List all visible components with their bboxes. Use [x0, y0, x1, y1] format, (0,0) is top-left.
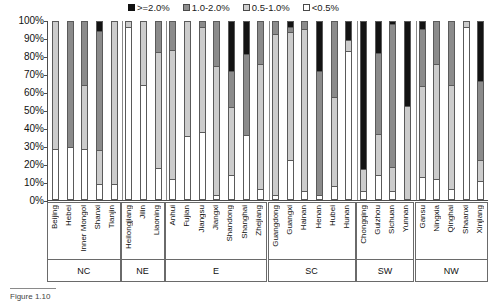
bar-segment [214, 67, 219, 196]
legend-item: <0.5% [303, 3, 339, 13]
bar-slot [459, 21, 474, 200]
region-separator [269, 21, 270, 200]
caption-text: Figure 1.10 [10, 292, 50, 301]
bar-segment [302, 192, 307, 199]
bar-segment [449, 86, 454, 190]
category-label: Xinjiang [476, 205, 484, 233]
bar-slot [444, 21, 459, 200]
bar-slot [195, 21, 210, 200]
stacked-bar [287, 21, 294, 200]
legend-label: 0.5-1.0% [252, 3, 290, 13]
bar-segment [156, 169, 161, 199]
stacked-bar [316, 21, 323, 200]
category-label: Shanghai [241, 205, 249, 239]
category-cell: Shandong [223, 203, 237, 259]
bar-segment [53, 22, 58, 150]
stacked-bar [169, 21, 176, 200]
bar-slot [400, 21, 415, 200]
category-cell: Jilin [136, 203, 150, 259]
category-cell: Guangxi [283, 203, 297, 259]
bar-segment [258, 65, 263, 190]
category-cell: Zhejiang [252, 203, 266, 259]
category-cell: Qinghai [444, 203, 458, 259]
bar-segment [156, 22, 161, 53]
bar-segment [170, 22, 175, 51]
bar-slot [473, 21, 488, 200]
category-label: Guangxi [286, 205, 294, 235]
bar-slot [209, 21, 224, 200]
category-group: GansuNingxiaQinghaiShaanxiXinjiang [415, 202, 489, 260]
category-label: Zhejiang [255, 205, 263, 236]
bar-slot [107, 21, 122, 200]
bar-segment [141, 86, 146, 199]
category-cell: Sichuan [385, 203, 399, 259]
bar-segment [258, 22, 263, 65]
bar-segment [434, 22, 439, 65]
bar-segment [170, 51, 175, 180]
bar-segment [170, 180, 175, 199]
bar-slot [327, 21, 342, 200]
bar-segment [302, 22, 307, 30]
bar-slot [136, 21, 151, 200]
stacked-bar [228, 21, 235, 200]
bar-segment [376, 135, 381, 176]
stacked-bar [243, 21, 250, 200]
bar-segment [214, 196, 219, 199]
category-label: Hubei [329, 205, 337, 226]
category-cell: Guizhou [371, 203, 385, 259]
category-cell: Liaoning [150, 203, 164, 259]
bar-segment [97, 32, 102, 151]
stacked-bar [404, 21, 411, 200]
bar-segment [478, 82, 483, 161]
bar-slot [356, 21, 371, 200]
plot-area: 100%90%80%70%60%50%40%30%20%10%0% [47, 21, 488, 201]
category-group: HeilongjiangJilinLiaoning [121, 202, 165, 260]
bar-slot [165, 21, 180, 200]
bar-slot [297, 21, 312, 200]
bar-segment [82, 150, 87, 199]
bar-segment [464, 28, 469, 199]
legend-item: 0.5-1.0% [243, 3, 290, 13]
stacked-bar [257, 21, 264, 200]
bar-segment [376, 22, 381, 54]
bar-slot [48, 21, 63, 200]
category-label: Ningxia [433, 205, 441, 232]
stacked-bar-chart: >=2.0%1.0-2.0%0.5-1.0%<0.5% 100%90%80%70… [0, 0, 492, 307]
category-label: Anhui [169, 205, 177, 225]
bar-slot [77, 21, 92, 200]
bar-segment [332, 22, 337, 98]
bar-segment [478, 161, 483, 181]
category-cell: Chongqing [357, 203, 371, 259]
region-separator [122, 21, 123, 200]
category-label: Chongqing [360, 205, 368, 244]
bar-segment [229, 176, 234, 199]
category-label: Gansu [419, 205, 427, 229]
stacked-bar [433, 21, 440, 200]
bar-segment [112, 22, 117, 185]
category-cell: Anhui [166, 203, 180, 259]
category-cell: Yunnan [399, 203, 413, 259]
category-label: Sichuan [388, 205, 396, 234]
stacked-bar [419, 21, 426, 200]
bar-segment [273, 22, 278, 35]
bar-slot [239, 21, 254, 200]
category-label: Guangdong [272, 205, 280, 247]
bar-segment [97, 151, 102, 185]
category-cell: Hainan [297, 203, 311, 259]
category-cell: Hebei [62, 203, 76, 259]
bar-segment [420, 87, 425, 178]
bar-segment [390, 192, 395, 199]
stacked-bar [140, 21, 147, 200]
legend-swatch-icon [243, 4, 250, 11]
bar-segment [185, 137, 190, 199]
category-label: Guizhou [374, 205, 382, 235]
region-separator [357, 21, 358, 200]
region-separator [416, 21, 417, 200]
bar-slot [253, 21, 268, 200]
bar-segment [200, 133, 205, 200]
legend-label: 1.0-2.0% [192, 3, 230, 13]
region-separator [166, 21, 167, 200]
bar-segment [244, 55, 249, 137]
region-label: E [165, 260, 268, 282]
category-label: Jiangxi [212, 205, 220, 230]
